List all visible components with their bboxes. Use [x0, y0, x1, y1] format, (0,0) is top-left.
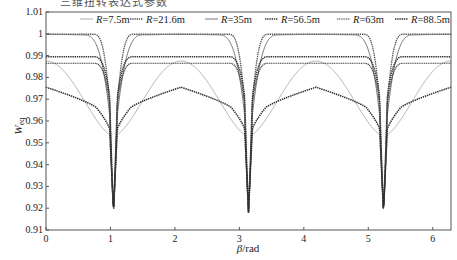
y-tick-label: 0.91 — [26, 224, 44, 235]
x-axis-title: β/rad — [236, 242, 260, 254]
legend-entry: R=56.5m — [280, 14, 320, 25]
legend-entry: R=21.6m — [145, 14, 185, 25]
legend: R=7.5mR=21.6mR=35mR=56.5mR=63mR=88.5m — [80, 14, 450, 25]
series-line — [46, 57, 451, 213]
y-axis: 0.910.920.930.940.950.960.970.980.9911.0… — [26, 6, 50, 235]
y-tick-label: 1.01 — [26, 6, 44, 17]
y-tick-label: 0.93 — [26, 180, 44, 191]
x-tick-label: 4 — [301, 233, 306, 244]
y-tick-label: 0.95 — [26, 137, 44, 148]
y-tick-label: 0.96 — [26, 115, 44, 126]
x-tick-label: 6 — [430, 233, 435, 244]
y-tick-label: 0.98 — [26, 71, 44, 82]
x-tick-label: 0 — [44, 233, 49, 244]
y-tick-label: 0.94 — [26, 159, 44, 170]
x-tick-label: 5 — [366, 233, 371, 244]
legend-entry: R=7.5m — [95, 14, 130, 25]
line-chart: 0123456 0.910.920.930.940.950.960.970.98… — [0, 0, 457, 260]
x-tick-label: 2 — [172, 233, 177, 244]
legend-entry: R=88.5m — [410, 14, 450, 25]
legend-entry: R=63m — [352, 14, 384, 25]
x-tick-label: 1 — [108, 233, 113, 244]
y-tick-label: 1 — [38, 28, 43, 39]
y-tick-label: 0.92 — [26, 202, 44, 213]
series-line — [46, 63, 451, 212]
chart-curves — [46, 34, 451, 212]
series-line — [46, 87, 451, 212]
legend-entry: R=35m — [220, 14, 252, 25]
y-tick-label: 0.97 — [26, 93, 44, 104]
y-tick-label: 0.99 — [26, 50, 44, 61]
y-axis-title: Weq — [12, 118, 26, 135]
